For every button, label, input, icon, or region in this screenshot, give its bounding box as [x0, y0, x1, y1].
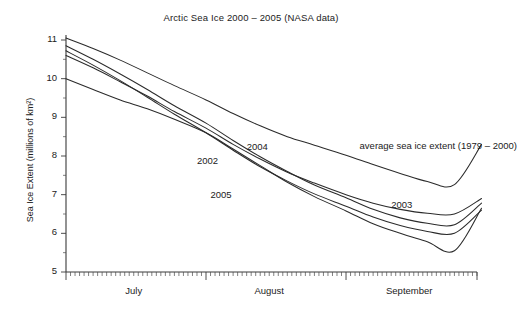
x-tick-label: September [364, 285, 454, 296]
axis-layer [61, 35, 477, 280]
series-line [66, 46, 482, 226]
y-axis-title: Sea Ice Extent (millions of km²) [25, 70, 35, 250]
y-tick-label: 7 [37, 188, 57, 199]
y-tick-label: 6 [37, 226, 57, 237]
series-annotation: 2004 [247, 141, 268, 152]
y-tick-label: 8 [37, 149, 57, 160]
series-annotation: 2003 [391, 199, 412, 210]
x-tick-label: July [89, 285, 179, 296]
y-tick-label: 9 [37, 110, 57, 121]
y-tick-label: 10 [37, 72, 57, 83]
y-tick-label: 5 [37, 265, 57, 276]
y-tick-label: 11 [37, 33, 57, 44]
series-annotation: average sea ice extent (1979 – 2000) [360, 140, 517, 151]
chart-title: Arctic Sea Ice 2000 – 2005 (NASA data) [0, 12, 502, 23]
series-line [66, 55, 482, 215]
x-tick-label: August [224, 285, 314, 296]
series-annotation: 2005 [211, 189, 232, 200]
series-annotation: 2002 [197, 155, 218, 166]
